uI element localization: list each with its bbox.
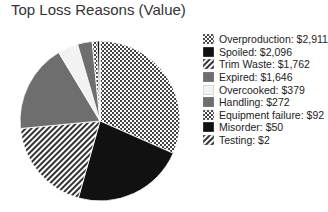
- legend-swatch-icon: [203, 97, 214, 107]
- legend: Overproduction: $2,911Spoiled: $2,096Tri…: [203, 33, 328, 146]
- legend-swatch-icon: [203, 122, 214, 132]
- legend-swatch-icon: [203, 110, 214, 120]
- legend-label: Testing: $2: [219, 134, 270, 146]
- legend-swatch-icon: [203, 135, 214, 145]
- legend-label: Equipment failure: $92: [219, 109, 324, 121]
- legend-item: Misorder: $50: [203, 121, 328, 134]
- legend-swatch-icon: [203, 85, 214, 95]
- legend-item: Overproduction: $2,911: [203, 33, 328, 46]
- legend-swatch-icon: [203, 47, 214, 57]
- legend-label: Trim Waste: $1,762: [219, 58, 310, 70]
- legend-label: Overcooked: $379: [219, 84, 305, 96]
- legend-label: Handling: $272: [219, 96, 290, 108]
- pie-chart: [0, 0, 200, 212]
- legend-item: Handling: $272: [203, 96, 328, 109]
- legend-item: Testing: $2: [203, 134, 328, 147]
- pie-slices: [20, 41, 180, 201]
- legend-label: Expired: $1,646: [219, 71, 293, 83]
- legend-label: Misorder: $50: [219, 121, 283, 133]
- legend-item: Expired: $1,646: [203, 71, 328, 84]
- legend-item: Overcooked: $379: [203, 83, 328, 96]
- legend-label: Overproduction: $2,911: [219, 33, 328, 45]
- legend-item: Spoiled: $2,096: [203, 46, 328, 59]
- legend-swatch-icon: [203, 72, 214, 82]
- legend-swatch-icon: [203, 34, 214, 44]
- legend-item: Equipment failure: $92: [203, 109, 328, 122]
- legend-item: Trim Waste: $1,762: [203, 58, 328, 71]
- legend-swatch-icon: [203, 59, 214, 69]
- legend-label: Spoiled: $2,096: [219, 46, 292, 58]
